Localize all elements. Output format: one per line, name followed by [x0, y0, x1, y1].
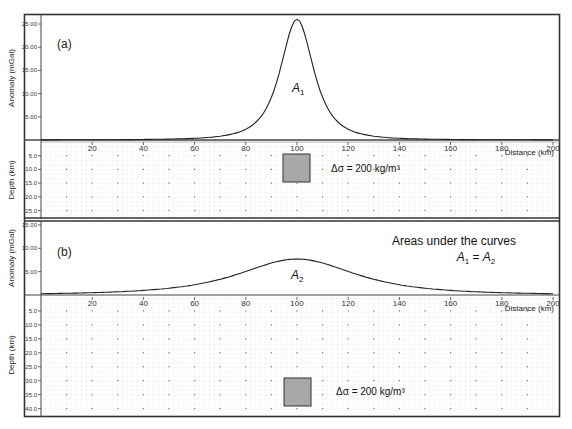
depth-tick: 10.0: [25, 166, 37, 172]
anomaly-axis-label-a: Anomaly (mGal): [7, 49, 16, 107]
anomaly-tick: 15.00: [22, 222, 38, 228]
density-annotation-a: Δσ = 200 kg/m³: [331, 163, 400, 174]
depth-axis-label-b: Depth (km): [7, 335, 16, 375]
distance-tick: 40: [139, 144, 148, 153]
distance-tick: 140: [393, 144, 407, 153]
panel-label-b: (b): [57, 245, 72, 259]
areas-note-equation: A1 = A2: [456, 250, 496, 266]
distance-tick: 120: [342, 144, 356, 153]
anomaly-tick: 15.00: [22, 67, 38, 73]
distance-tick: 20: [88, 144, 97, 153]
depth-tick: 30.0: [25, 378, 37, 384]
distance-tick: 100: [290, 144, 304, 153]
depth-tick: 20.0: [25, 350, 37, 356]
distance-label-b: Distance (km): [505, 304, 555, 313]
distance-tick: 20: [88, 299, 97, 308]
anomaly-tick: 10.00: [22, 245, 38, 251]
anomaly-tick: 10.00: [22, 91, 38, 97]
anomaly-tick: 5.00: [25, 269, 37, 275]
distance-tick: 120: [342, 299, 356, 308]
distance-tick: 160: [444, 144, 458, 153]
distance-label-a: Distance (km): [505, 148, 555, 157]
depth-tick: 15.0: [25, 336, 37, 342]
density-body-b: [284, 378, 311, 406]
depth-tick: 25.0: [25, 364, 37, 370]
distance-tick: 100: [290, 299, 304, 308]
anomaly-tick: 25.00: [22, 21, 38, 27]
density-body-a: [283, 154, 310, 182]
distance-tick: 140: [393, 299, 407, 308]
depth-axis-label-a: Depth (km): [7, 160, 16, 200]
depth-tick: 5.0: [29, 308, 38, 314]
depth-tick: 10.0: [25, 322, 37, 328]
density-annotation-b: Δσ = 200 kg/m³: [336, 386, 405, 397]
anomaly-tick: 5.00: [25, 114, 37, 120]
distance-tick: 40: [139, 299, 148, 308]
distance-tick: 80: [241, 299, 250, 308]
anomaly-axis-label-b: Anomaly (mGal): [7, 229, 16, 287]
areas-note-line1: Areas under the curves: [392, 234, 516, 248]
distance-tick: 60: [190, 299, 199, 308]
depth-tick: 40.0: [25, 406, 37, 412]
distance-tick: 60: [190, 144, 199, 153]
depth-tick: 20.0: [25, 194, 37, 200]
depth-tick: 15.0: [25, 180, 37, 186]
depth-tick: 35.0: [25, 392, 37, 398]
anomaly-tick: 20.00: [22, 44, 38, 50]
panel-label-a: (a): [57, 37, 72, 51]
depth-tick: 25.0: [25, 208, 37, 214]
distance-tick: 80: [241, 144, 250, 153]
depth-tick: 5.0: [29, 153, 38, 159]
figure: 25.0020.0015.0010.005.00 5.010.015.020.0…: [0, 0, 572, 429]
distance-tick: 160: [444, 299, 458, 308]
